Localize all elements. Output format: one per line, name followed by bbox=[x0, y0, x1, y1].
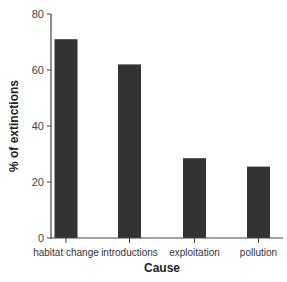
bar bbox=[183, 158, 206, 238]
y-tick-label: 60 bbox=[32, 64, 44, 76]
x-axis: habitat changeintroductionsexploitationp… bbox=[33, 238, 283, 258]
bar-chart: 020406080 habitat changeintroductionsexp… bbox=[0, 0, 287, 282]
bars bbox=[55, 39, 271, 238]
x-tick-label: pollution bbox=[240, 247, 277, 258]
x-tick-label: habitat change bbox=[33, 247, 99, 258]
y-axis: 020406080 bbox=[32, 8, 51, 244]
y-tick-label: 40 bbox=[32, 120, 44, 132]
bar bbox=[55, 39, 78, 238]
y-tick-label: 20 bbox=[32, 176, 44, 188]
bar bbox=[118, 64, 141, 238]
x-tick-label: exploitation bbox=[169, 247, 220, 258]
y-tick-label: 80 bbox=[32, 8, 44, 20]
x-axis-title: Cause bbox=[144, 261, 180, 275]
x-tick-label: introductions bbox=[101, 247, 158, 258]
y-axis-title: % of extinctions bbox=[7, 80, 21, 172]
bar bbox=[247, 167, 270, 238]
y-tick-label: 0 bbox=[38, 232, 44, 244]
